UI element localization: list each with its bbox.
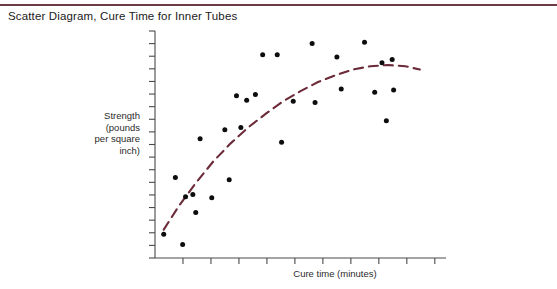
data-point xyxy=(209,195,214,200)
data-point xyxy=(384,118,389,123)
data-point xyxy=(238,125,243,130)
scatter-diagram-page: Scatter Diagram, Cure Time for Inner Tub… xyxy=(0,0,557,289)
y-axis-group xyxy=(149,31,155,258)
trend-line-curve xyxy=(164,65,420,230)
data-point xyxy=(180,242,185,247)
data-point xyxy=(173,175,178,180)
data-point xyxy=(198,136,203,141)
data-point xyxy=(227,177,232,182)
data-point xyxy=(260,52,265,57)
data-point xyxy=(244,98,249,103)
data-point xyxy=(279,140,284,145)
x-axis-ticks xyxy=(183,258,435,264)
data-point xyxy=(372,90,377,95)
data-point xyxy=(275,52,280,57)
data-point xyxy=(362,40,367,45)
data-point xyxy=(379,60,384,65)
data-point xyxy=(339,86,344,91)
y-axis-ticks xyxy=(149,31,155,258)
data-point xyxy=(334,55,339,60)
data-point xyxy=(161,232,166,237)
scatter-plot-canvas xyxy=(0,0,557,289)
data-point xyxy=(310,41,315,46)
data-point xyxy=(222,127,227,132)
data-point xyxy=(234,93,239,98)
data-point xyxy=(183,194,188,199)
data-point xyxy=(291,99,296,104)
data-points-group xyxy=(161,40,396,247)
x-axis-group xyxy=(155,258,446,264)
data-point xyxy=(253,92,258,97)
data-point xyxy=(390,57,395,62)
data-point xyxy=(391,88,396,93)
data-point xyxy=(193,210,198,215)
data-point xyxy=(313,100,318,105)
data-point xyxy=(190,192,195,197)
